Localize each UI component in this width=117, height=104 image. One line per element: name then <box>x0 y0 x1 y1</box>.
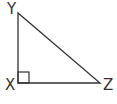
triangle-xyz <box>18 13 100 83</box>
vertex-label-y: Y <box>6 0 17 18</box>
vertex-label-x: X <box>5 76 15 94</box>
vertex-label-z: Z <box>103 76 113 94</box>
triangle-diagram: Y X Z <box>0 0 117 104</box>
right-angle-marker <box>18 72 29 83</box>
